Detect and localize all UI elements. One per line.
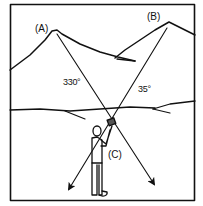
bearing-a-label: 330° — [63, 78, 80, 87]
landmark-b-label: (B) — [147, 12, 160, 22]
mountain-b-outline — [115, 22, 195, 58]
horizon-left — [10, 107, 155, 111]
observer-label: (C) — [108, 150, 122, 160]
horizon-right-foot — [153, 109, 170, 113]
observer-head — [93, 126, 101, 136]
compass-icon — [107, 118, 116, 126]
diagram-canvas — [0, 0, 203, 206]
horizon-right — [153, 101, 195, 109]
observer-foot — [99, 191, 107, 196]
bearing-b-label: 35° — [138, 85, 151, 94]
mountain-a-outline — [10, 30, 135, 70]
bearing-line-a — [57, 34, 154, 184]
observer-torso — [92, 137, 102, 163]
horizon-left-foot — [65, 111, 85, 119]
resection-diagram: (A) (B) 330° 35° (C) — [0, 0, 203, 206]
landmark-a-label: (A) — [35, 24, 48, 34]
observer-legs — [92, 163, 102, 195]
